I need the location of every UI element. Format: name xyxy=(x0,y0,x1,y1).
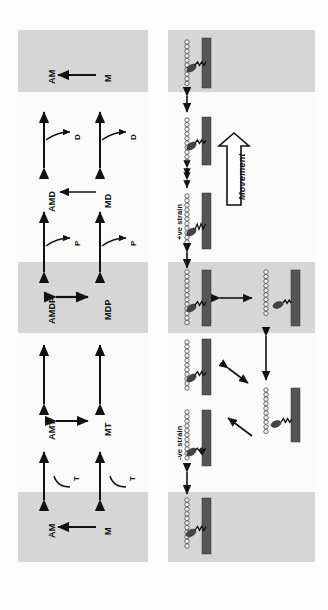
annotation-pos-strain: +ve strain xyxy=(176,204,184,240)
crossbridge-state-8 xyxy=(185,410,211,466)
annotation-movement: Movement xyxy=(238,153,247,200)
crossbridge-state-6 xyxy=(185,339,211,395)
crossbridge-state-1 xyxy=(185,38,211,88)
crossbridge-state-3 xyxy=(185,193,211,249)
right-panel-graphics xyxy=(0,0,328,610)
figure-canvas: AM M D D AMD MD P P AMDP MDP AMT MT T T … xyxy=(0,0,328,610)
crossbridge-state-9 xyxy=(185,498,211,554)
crossbridge-state-7 xyxy=(264,388,300,442)
crossbridge-state-5 xyxy=(264,270,300,326)
annotation-neg-strain: -ve strain xyxy=(176,426,184,460)
crossbridge-state-2 xyxy=(185,117,211,165)
crossbridge-state-4 xyxy=(185,270,211,326)
